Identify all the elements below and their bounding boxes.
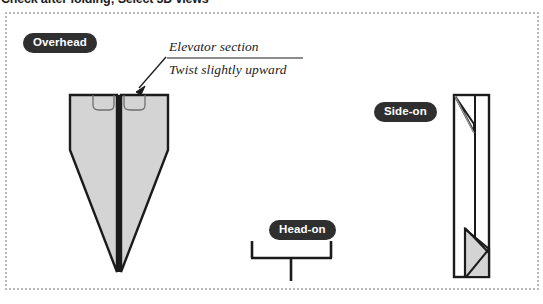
page-title: Check after folding; Select 3D views xyxy=(1,0,208,6)
label-head-on: Head-on xyxy=(269,220,336,240)
label-overhead: Overhead xyxy=(23,33,97,53)
annotation-elevator-section: Elevator section xyxy=(169,39,259,55)
figure-frame xyxy=(5,12,539,290)
page-title-strip: Check after folding; Select 3D views xyxy=(0,0,543,11)
annotation-twist-upward: Twist slightly upward xyxy=(169,62,287,78)
label-side-on: Side-on xyxy=(374,102,437,122)
